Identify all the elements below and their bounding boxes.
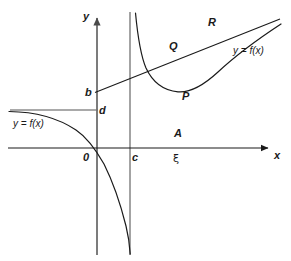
curve-right-equation-label: y = f(x) [233,46,264,56]
y-axis-label: y [83,11,89,22]
figure-graph-y-equals-f-of-x: y x 0 b d c ξ A P Q R y = f(x) y = f(x) [0,0,291,261]
x-axis-label: x [274,150,280,161]
label-Q: Q [169,41,178,52]
label-P: P [182,91,189,102]
curve-left-branch [9,112,130,255]
label-xi: ξ [173,153,179,164]
label-R: R [208,17,216,28]
label-c: c [132,152,138,163]
label-b: b [85,87,92,98]
curve-left-equation-label: y = f(x) [13,119,44,129]
graph-canvas [0,0,291,261]
origin-label: 0 [83,152,89,163]
label-d: d [99,105,106,116]
label-A: A [174,128,182,139]
